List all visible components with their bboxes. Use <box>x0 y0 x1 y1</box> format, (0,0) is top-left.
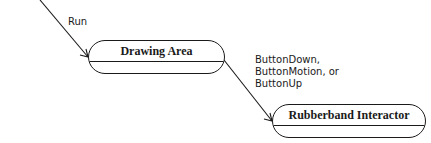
node-rubberband-interactor[interactable]: Rubberband Interactor <box>272 104 426 138</box>
edge-label-line: ButtonDown, <box>255 54 339 66</box>
edge-label-line: ButtonUp <box>255 78 339 90</box>
node-title: Rubberband Interactor <box>273 105 425 126</box>
edge-label-button-events: ButtonDown, ButtonMotion, or ButtonUp <box>255 54 339 90</box>
edge-label-line: ButtonMotion, or <box>255 66 339 78</box>
diagram-canvas: Run ButtonDown, ButtonMotion, or ButtonU… <box>0 0 431 143</box>
node-drawing-area[interactable]: Drawing Area <box>88 40 225 74</box>
edge-label-run: Run <box>68 16 87 28</box>
edge-run-arrow <box>40 0 88 57</box>
node-title: Drawing Area <box>89 41 224 62</box>
